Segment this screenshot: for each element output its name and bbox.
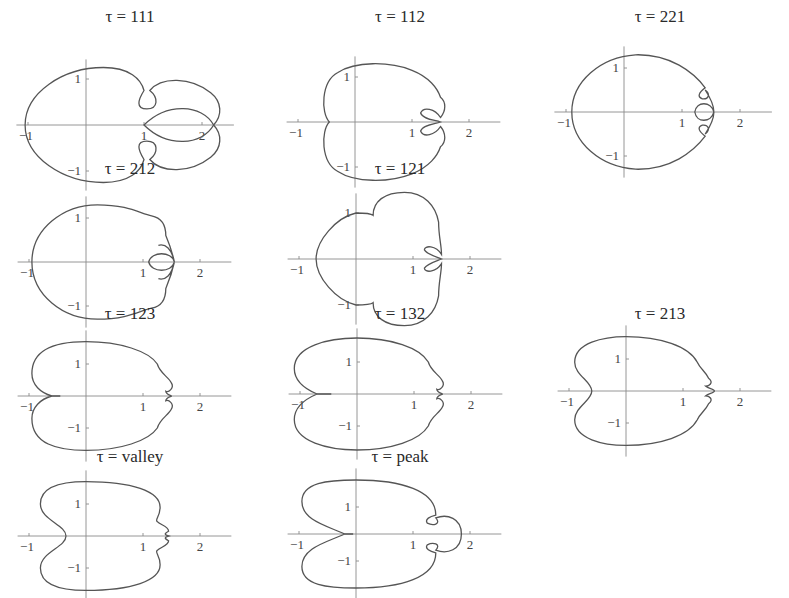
- y-tick-label: 1: [615, 351, 622, 366]
- y-tick-label: 1: [345, 499, 352, 514]
- plot-panel-peak: τ = peak −1121−1: [270, 448, 530, 598]
- y-tick-label: −1: [337, 553, 351, 568]
- y-tick-label: 1: [75, 356, 82, 371]
- y-tick-label: −1: [607, 415, 621, 430]
- x-tick-label: −1: [291, 397, 305, 412]
- x-tick-label: −1: [560, 394, 574, 409]
- plot-panel-123: τ = 123 −1121−1: [0, 305, 260, 455]
- x-tick-label: 2: [197, 265, 204, 280]
- plot-panel-111: τ = 111 −1121−1: [0, 8, 260, 158]
- x-tick-label: 1: [411, 397, 418, 412]
- plot-area: −1121−1: [0, 8, 260, 158]
- y-tick-label: 1: [75, 496, 82, 511]
- y-tick-label: −1: [67, 420, 81, 435]
- x-tick-label: 1: [679, 115, 686, 130]
- x-tick-label: −1: [290, 537, 304, 552]
- x-tick-label: 2: [466, 125, 473, 140]
- y-tick-label: 1: [344, 69, 351, 84]
- plot-area: −1121−1: [270, 448, 530, 598]
- x-tick-label: 1: [140, 539, 147, 554]
- plot-panel-213: τ = 213 −1121−1: [530, 305, 789, 455]
- x-tick-label: 2: [197, 539, 204, 554]
- x-tick-label: 2: [468, 397, 475, 412]
- plot-panel-121: τ = 121 −1121−1: [270, 160, 530, 310]
- x-tick-label: 2: [467, 262, 474, 277]
- x-tick-label: 1: [140, 265, 147, 280]
- plot-area: −1121−1: [530, 305, 789, 455]
- x-tick-label: −1: [20, 539, 34, 554]
- plot-area: −1121−1: [270, 305, 530, 455]
- plot-panel-valley: τ = valley −1121−1: [0, 448, 260, 598]
- x-tick-label: −1: [289, 125, 303, 140]
- plot-area: −1121−1: [0, 160, 260, 310]
- x-tick-label: −1: [290, 262, 304, 277]
- y-tick-label: −1: [605, 148, 619, 163]
- plot-panel-212: τ = 212 −1121−1: [0, 160, 260, 310]
- plot-area: −1121−1: [270, 160, 530, 310]
- plot-panel-112: τ = 112 −1121−1: [270, 8, 530, 158]
- x-tick-label: 2: [737, 394, 744, 409]
- y-tick-label: 1: [613, 60, 620, 75]
- plot-area: −1121−1: [530, 8, 789, 158]
- x-tick-label: 2: [467, 537, 474, 552]
- x-tick-label: −1: [20, 399, 34, 414]
- plot-panel-132: τ = 132 −1121−1: [270, 305, 530, 455]
- y-tick-label: 1: [346, 354, 353, 369]
- plot-area: −1121−1: [0, 305, 260, 455]
- plot-area: −1121−1: [270, 8, 530, 158]
- plot-panel-221: τ = 221 −1121−1: [530, 8, 789, 158]
- x-tick-label: 2: [197, 399, 204, 414]
- x-tick-label: 2: [737, 115, 744, 130]
- y-tick-label: 1: [75, 71, 82, 86]
- x-tick-label: −1: [557, 115, 571, 130]
- x-tick-label: 1: [410, 537, 417, 552]
- y-tick-label: −1: [338, 418, 352, 433]
- plot-area: −1121−1: [0, 448, 260, 598]
- x-tick-label: 1: [410, 262, 417, 277]
- y-tick-label: 1: [75, 210, 82, 225]
- x-tick-label: 1: [140, 399, 147, 414]
- x-tick-label: 1: [680, 394, 687, 409]
- y-tick-label: −1: [67, 560, 81, 575]
- x-tick-label: 1: [409, 125, 416, 140]
- y-tick-label: 1: [345, 205, 352, 220]
